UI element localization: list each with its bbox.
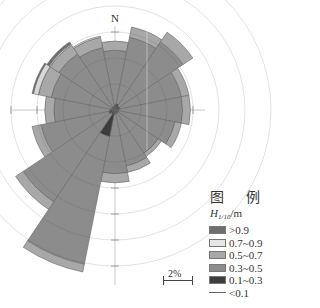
legend-item: <0.1	[206, 287, 276, 300]
legend-swatch	[209, 264, 226, 272]
scale-bar-label: 2%	[168, 268, 181, 279]
legend-label: 0.5~0.7	[229, 249, 262, 261]
legend-item: 0.5~0.7	[206, 249, 276, 262]
legend-title: 图 例	[210, 190, 276, 206]
legend-swatch	[209, 292, 226, 293]
legend-item: >0.9	[206, 224, 276, 237]
legend: 图 例 H1/10/m >0.90.7~0.90.5~0.70.3~0.50.1…	[206, 190, 276, 299]
legend-label: >0.9	[229, 224, 249, 236]
legend-label: <0.1	[229, 287, 249, 299]
scale-bar: 2%	[163, 271, 193, 285]
legend-item: 0.1~0.3	[206, 274, 276, 287]
legend-swatch	[209, 251, 226, 259]
legend-item: 0.7~0.9	[206, 237, 276, 250]
north-label: N	[111, 12, 119, 24]
legend-label: 0.7~0.9	[229, 237, 262, 249]
rose-sector-n	[102, 41, 129, 51]
rose-sector-s	[101, 172, 129, 182]
legend-label: 0.1~0.3	[229, 274, 262, 286]
legend-swatch	[209, 239, 226, 247]
legend-swatch	[209, 226, 226, 234]
legend-label: 0.3~0.5	[229, 262, 262, 274]
rose-sector-w	[45, 96, 55, 123]
legend-item: 0.3~0.5	[206, 262, 276, 275]
legend-swatch	[209, 276, 226, 284]
rose-sector-e	[181, 95, 190, 124]
legend-unit: H1/10/m	[210, 206, 276, 224]
